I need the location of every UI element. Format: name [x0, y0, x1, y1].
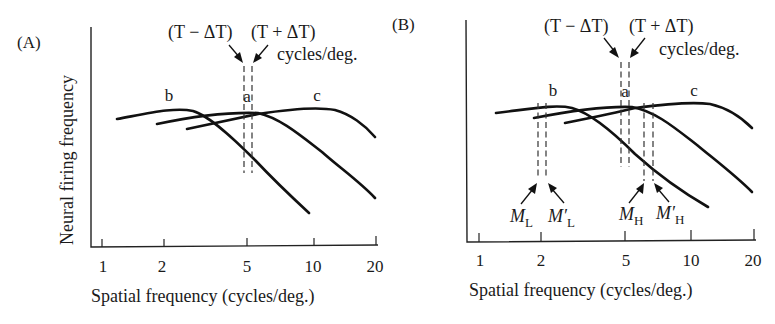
tick-label: 5: [243, 257, 252, 276]
curve-c: [565, 103, 752, 128]
marker-label-m-prime-h: M′H: [655, 203, 684, 227]
panel-a: (A) Neural firing frequency 1 2 5 10 20 …: [17, 22, 384, 307]
marker-label-m-h: MH: [618, 204, 643, 228]
tick-label: 1: [99, 257, 108, 276]
arrow-icon: [521, 183, 537, 204]
arrow-icon: [629, 183, 644, 203]
panel-a-tick-labels: 1 2 5 10 20: [99, 257, 384, 276]
tick-label: 5: [622, 251, 631, 270]
tick-label: 20: [745, 251, 762, 270]
curve-label-c: c: [690, 81, 698, 100]
annotation-units: cycles/deg.: [277, 44, 357, 64]
arrow-icon: [654, 183, 669, 202]
tick-label: 10: [683, 251, 700, 270]
arrow-icon: [630, 38, 645, 58]
annotation-t-minus: (T − ΔT): [544, 16, 608, 37]
curve-label-b: b: [165, 86, 174, 105]
panel-b-tick-labels: 1 2 5 10 20: [476, 251, 762, 270]
curve-label-c: c: [313, 86, 321, 105]
curve-b: [496, 107, 708, 207]
curve-b: [117, 110, 309, 213]
curve-a: [157, 113, 375, 198]
marker-label-m-prime-l: M′L: [547, 206, 575, 230]
tick-label: 1: [476, 251, 485, 270]
arrow-icon: [229, 45, 243, 63]
curve-label-a: a: [243, 87, 251, 106]
curve-a: [534, 107, 752, 192]
arrow-icon: [253, 45, 268, 63]
spatial-frequency-figure: (A) Neural firing frequency 1 2 5 10 20 …: [0, 0, 775, 324]
curve-label-b: b: [549, 81, 558, 100]
panel-a-label: (A): [17, 33, 41, 52]
y-axis-label: Neural firing frequency: [57, 75, 77, 245]
arrow-icon: [604, 38, 619, 58]
annotation-units: cycles/deg.: [659, 39, 739, 59]
tick-label: 10: [305, 257, 322, 276]
x-axis-label: Spatial frequency (cycles/deg.): [469, 280, 692, 301]
panel-b: (B) 1 2 5 10 20 Spatial frequency (cycle…: [392, 15, 762, 301]
tick-label: 2: [537, 251, 546, 270]
annotation-t-plus: (T + ΔT): [629, 16, 693, 37]
arrow-icon: [548, 183, 564, 203]
marker-label-m-l: ML: [509, 206, 533, 230]
annotation-t-minus: (T − ΔT): [168, 22, 232, 43]
tick-label: 20: [367, 257, 384, 276]
curve-label-a: a: [621, 82, 629, 101]
x-axis-label: Spatial frequency (cycles/deg.): [91, 286, 314, 307]
tick-label: 2: [158, 257, 167, 276]
annotation-t-plus: (T + ΔT): [251, 22, 315, 43]
panel-b-label: (B): [392, 15, 415, 34]
